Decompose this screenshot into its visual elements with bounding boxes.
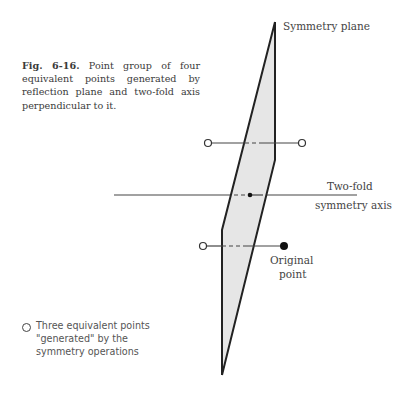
generated-point-upper-left xyxy=(205,140,212,147)
original-point-label-line1: Original xyxy=(270,254,313,267)
two-fold-label-line1: Two-fold xyxy=(327,180,373,193)
axis-center-point xyxy=(248,193,253,198)
legend-line3: symmetry operations xyxy=(36,345,202,358)
generated-point-lower-left xyxy=(200,243,207,250)
two-fold-label-line2: symmetry axis xyxy=(315,199,392,212)
original-point-label-line2: point xyxy=(279,268,306,281)
symmetry-plane-label: Symmetry plane xyxy=(283,20,370,33)
legend-line2: "generated" by the xyxy=(36,332,202,345)
legend: Three equivalent points "generated" by t… xyxy=(22,319,202,358)
legend-line1: Three equivalent points xyxy=(36,319,202,332)
open-circle-icon xyxy=(22,323,31,332)
original-point xyxy=(280,242,288,250)
generated-point-upper-right xyxy=(299,140,306,147)
